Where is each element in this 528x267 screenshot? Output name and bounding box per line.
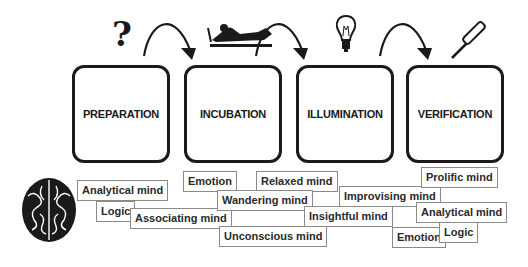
tag-analytical-mind: Analytical mind (77, 180, 168, 201)
stage-label: VERIFICATION (418, 108, 492, 120)
lightbulb-icon (334, 14, 358, 58)
stage-preparation: PREPARATION (72, 65, 170, 163)
tag-emotion-2: Emotion (392, 227, 446, 248)
stage-illumination: ILLUMINATION (296, 65, 394, 163)
tag-prolific-mind: Prolific mind (421, 167, 498, 188)
tag-logic-2: Logic (439, 222, 478, 243)
stage-label: PREPARATION (83, 108, 159, 120)
tag-associating-mind: Associating mind (130, 208, 232, 229)
brain-icon (20, 176, 78, 244)
tag-analytical-mind-2: Analytical mind (416, 202, 507, 223)
stage-label: ILLUMINATION (307, 108, 383, 120)
tag-emotion: Emotion (183, 171, 237, 192)
stage-incubation: INCUBATION (184, 65, 282, 163)
screwdriver-icon (446, 12, 496, 64)
stage-verification: VERIFICATION (406, 65, 504, 163)
tag-unconscious-mind: Unconscious mind (219, 226, 327, 247)
person-resting-icon (202, 20, 274, 50)
stage-label: INCUBATION (200, 108, 266, 120)
tag-wandering-mind: Wandering mind (217, 190, 313, 211)
tag-insightful-mind: Insightful mind (304, 206, 393, 227)
tag-relaxed-mind: Relaxed mind (256, 171, 338, 192)
